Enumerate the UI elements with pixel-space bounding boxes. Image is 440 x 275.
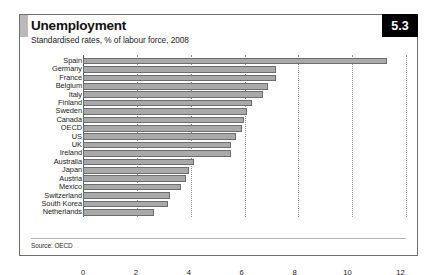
bar-france [83,75,276,82]
chart-plot-area: SpainGermanyFranceBelgiumItalyFinlandSwe… [20,55,417,227]
bar-track [83,74,411,82]
bar-track [83,175,411,183]
bar-finland [83,100,252,107]
page-title: Unemployment [31,18,126,33]
bar-track [83,158,411,166]
bar-track [83,200,411,208]
source-divider [31,238,406,239]
bar-track [83,82,411,90]
bar-track [83,91,411,99]
bar-track [83,57,411,65]
chart-bar-rows: SpainGermanyFranceBelgiumItalyFinlandSwe… [20,57,411,217]
chart-figure: Unemployment Standardised rates, % of la… [19,14,418,256]
bar-mexico [83,184,181,191]
x-tick-label-10: 10 [343,268,351,275]
bar-ireland [83,150,231,157]
x-tick-label-4: 4 [187,268,191,275]
bar-italy [83,91,263,98]
x-tick-label-0: 0 [81,268,85,275]
bar-canada [83,117,244,124]
bar-track [83,107,411,115]
chart-header: Unemployment Standardised rates, % of la… [20,15,417,57]
bar-spain [83,58,387,65]
bar-sweden [83,108,247,115]
x-tick-label-6: 6 [240,268,244,275]
bar-uk [83,142,231,149]
bar-belgium [83,83,268,90]
bar-us [83,133,236,140]
bar-south-korea [83,201,168,208]
x-tick-label-12: 12 [396,268,404,275]
title-accent-rule [20,15,28,37]
bar-netherlands [83,209,154,216]
bar-japan [83,167,189,174]
bar-track [83,65,411,73]
x-tick-label-2: 2 [134,268,138,275]
x-tick-label-8: 8 [292,268,296,275]
bar-oecd [83,125,242,132]
bar-switzerland [83,192,170,199]
bar-track [83,183,411,191]
bar-track [83,149,411,157]
bar-track [83,116,411,124]
section-number-badge: 5.3 [382,14,418,37]
category-label: Netherlands [20,208,82,216]
bar-track [83,166,411,174]
chart-x-axis: 024681012 [83,268,411,275]
bar-track [83,99,411,107]
bar-austria [83,175,186,182]
bar-track [83,208,411,216]
bar-track [83,124,411,132]
chart-subtitle: Standardised rates, % of labour force, 2… [31,35,189,45]
bar-germany [83,66,276,73]
chart-bar-row: Netherlands [20,208,411,216]
bar-track [83,133,411,141]
bar-track [83,141,411,149]
source-note: Source: OECD [31,242,73,249]
bar-track [83,192,411,200]
bar-australia [83,159,194,166]
